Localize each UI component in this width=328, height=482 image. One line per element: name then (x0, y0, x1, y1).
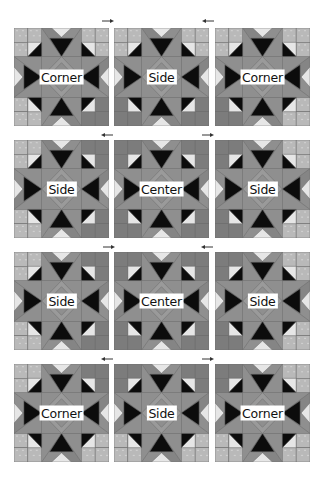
block-label: Corner (39, 406, 84, 421)
quilt-block-side: Side (215, 252, 310, 350)
block-label: Side (146, 70, 176, 85)
block-label: Corner (240, 406, 285, 421)
block-label: Corner (39, 70, 84, 85)
arrow-left-icon (202, 19, 214, 23)
quilt-layout-diagram: CornerSideCornerSideCenterSideSideCenter… (0, 0, 328, 482)
block-label: Center (139, 182, 184, 197)
quilt-block-side: Side (215, 140, 310, 238)
quilt-block-side: Side (114, 364, 209, 462)
block-label: Side (146, 406, 176, 421)
quilt-block-center: Center (114, 140, 209, 238)
arrow-right-icon (202, 133, 214, 137)
block-label: Center (139, 294, 184, 309)
block-label: Side (247, 182, 277, 197)
arrow-left-icon (201, 245, 213, 249)
arrow-right-icon (103, 245, 115, 249)
block-label: Side (247, 294, 277, 309)
quilt-block-corner: Corner (215, 364, 310, 462)
block-label: Side (46, 294, 76, 309)
quilt-block-side: Side (14, 252, 109, 350)
quilt-block-center: Center (114, 252, 209, 350)
arrow-left-icon (101, 133, 113, 137)
quilt-block-side: Side (14, 140, 109, 238)
block-label: Corner (240, 70, 285, 85)
quilt-block-side: Side (114, 28, 209, 126)
arrow-left-icon (101, 357, 113, 361)
quilt-block-corner: Corner (215, 28, 310, 126)
quilt-block-corner: Corner (14, 364, 109, 462)
quilt-block-corner: Corner (14, 28, 109, 126)
block-label: Side (46, 182, 76, 197)
arrow-right-icon (102, 19, 114, 23)
arrow-right-icon (202, 357, 214, 361)
